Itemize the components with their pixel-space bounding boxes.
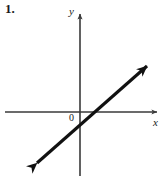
y-axis-label: y bbox=[69, 6, 74, 17]
problem-number: 1. bbox=[5, 2, 15, 15]
plotted-line bbox=[37, 66, 147, 163]
coordinate-plane-svg bbox=[0, 0, 167, 184]
graph-figure: 1. y x 0 bbox=[0, 0, 167, 184]
x-axis-label: x bbox=[153, 117, 158, 128]
origin-label: 0 bbox=[69, 113, 74, 123]
